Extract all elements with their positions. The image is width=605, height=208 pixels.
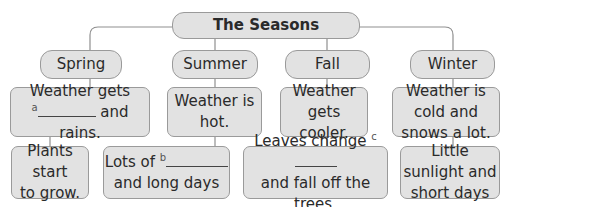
fall-detail-box: Leaves change c and fall off the trees. — [243, 146, 388, 199]
blank-c-label: c — [371, 131, 377, 142]
winter-label: Winter — [428, 54, 477, 75]
spring-node: Spring — [40, 50, 122, 79]
summer-label: Summer — [183, 54, 247, 75]
winter-detail-box: Little sunlight andshort days — [400, 146, 500, 199]
fall-weather-line1: Weather gets — [281, 81, 367, 123]
summer-weather-text: Weather is hot. — [168, 91, 261, 133]
spring-label: Spring — [57, 54, 105, 75]
winter-node: Winter — [410, 50, 495, 79]
winter-weather-line1: Weather is cold and — [393, 81, 499, 123]
winter-detail-line2: short days — [401, 183, 499, 204]
title-node: The Seasons — [172, 12, 360, 39]
fall-weather-box: Weather getscooler. — [280, 87, 368, 137]
summer-detail-line1: Lots of — [105, 153, 155, 171]
fall-label: Fall — [315, 54, 340, 75]
fall-detail-line2: and fall off the trees. — [244, 173, 387, 208]
spring-detail-line2: to grow. — [12, 183, 88, 204]
seasons-diagram: The Seasons Spring Summer Fall Winter We… — [0, 0, 605, 207]
spring-weather-line1: Weather gets — [11, 81, 149, 102]
summer-detail-box: Lots of b and long days — [103, 146, 230, 199]
blank-c[interactable] — [295, 152, 337, 167]
spring-weather-box: Weather gets a and rains. — [10, 87, 150, 137]
winter-weather-box: Weather is cold andsnows a lot. — [392, 87, 500, 137]
blank-a[interactable] — [38, 102, 96, 117]
summer-weather-box: Weather is hot. — [167, 87, 262, 137]
fall-detail-line1: Leaves change — [254, 132, 366, 150]
title-text: The Seasons — [213, 15, 319, 36]
spring-detail-line1: Plants start — [12, 141, 88, 183]
fall-node: Fall — [285, 50, 370, 79]
blank-b[interactable] — [166, 152, 228, 167]
summer-detail-line2: and long days — [105, 173, 228, 194]
spring-detail-box: Plants startto grow. — [11, 146, 89, 199]
summer-node: Summer — [172, 50, 258, 79]
winter-detail-line1: Little sunlight and — [401, 141, 499, 183]
